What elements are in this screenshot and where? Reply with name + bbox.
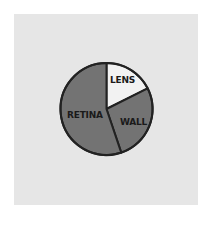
- pie-slices: [61, 63, 153, 155]
- pie-chart: LENS WALL RETINA: [0, 0, 211, 226]
- slice-label-retina: RETINA: [67, 110, 103, 120]
- slice-label-wall: WALL: [120, 117, 148, 127]
- slice-label-lens: LENS: [110, 75, 135, 85]
